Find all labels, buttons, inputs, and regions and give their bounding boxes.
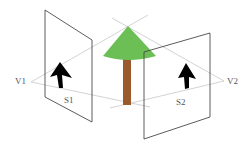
- tree-trunk: [123, 56, 131, 105]
- screen-s2: [144, 33, 210, 139]
- tree-foliage: [103, 26, 156, 60]
- label-s2: S2: [176, 97, 186, 107]
- rays-v1: [31, 15, 150, 107]
- label-v2: V2: [227, 76, 238, 86]
- label-s1: S1: [64, 95, 74, 105]
- screen-s1-frame: [45, 10, 92, 122]
- screen-s1: [45, 10, 92, 122]
- arrow-up-icon-s2: [178, 63, 196, 89]
- projection-diagram: V1 V2 S1 S2: [0, 0, 252, 147]
- screen-s2-frame: [144, 33, 210, 139]
- label-v1: V1: [15, 76, 26, 86]
- ray-v1-bottom: [31, 82, 150, 107]
- arrow-up-icon-s1: [50, 62, 72, 88]
